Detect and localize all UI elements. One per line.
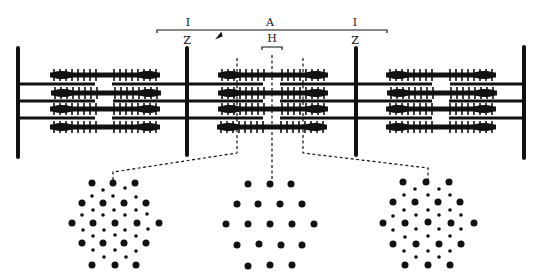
sarcomere-diagram: I A I Z H Z [0,0,539,277]
label-i-band-right: I [353,17,357,28]
label-z-line-right: Z [351,35,359,46]
thin-filaments [18,84,524,118]
cross-section-center [223,181,318,270]
label-z-line-left: Z [183,35,191,46]
label-a-band: A [266,17,274,28]
cross-section-right [380,179,478,269]
cross-section-left [69,180,163,269]
label-i-band-left: I [186,17,190,28]
label-h-zone: H [267,33,277,44]
